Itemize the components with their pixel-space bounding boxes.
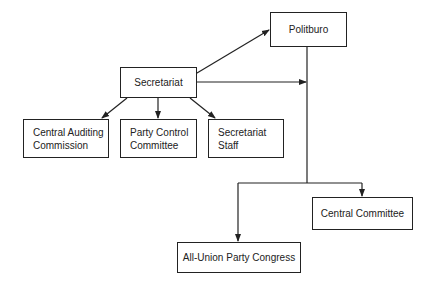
node-label: Secretariat	[134, 76, 182, 89]
node-label: All-Union Party Congress	[183, 251, 295, 264]
node-all-union-party-congress: All-Union Party Congress	[177, 242, 301, 273]
node-label-line1: Central Auditing	[33, 126, 104, 139]
node-label: Politburo	[289, 23, 328, 36]
node-central-committee: Central Committee	[312, 197, 413, 230]
node-politburo: Politburo	[270, 12, 347, 47]
arrow-to-secretariat-staff	[190, 98, 215, 118]
arrow-politburo-secretariat	[197, 30, 269, 73]
node-label-line2: Commission	[33, 139, 104, 152]
node-label-line1: Secretariat	[218, 126, 266, 139]
node-party-control-committee: Party Control Committee	[120, 119, 197, 158]
node-secretariat: Secretariat	[120, 67, 197, 98]
node-label-line2: Staff	[218, 139, 266, 152]
node-label: Central Committee	[321, 207, 404, 220]
node-central-auditing-commission: Central Auditing Commission	[23, 119, 109, 158]
node-secretariat-staff: Secretariat Staff	[208, 119, 284, 158]
node-label-line1: Party Control	[130, 126, 188, 139]
node-label-line2: Committee	[130, 139, 188, 152]
arrow-to-central-auditing	[102, 98, 127, 118]
